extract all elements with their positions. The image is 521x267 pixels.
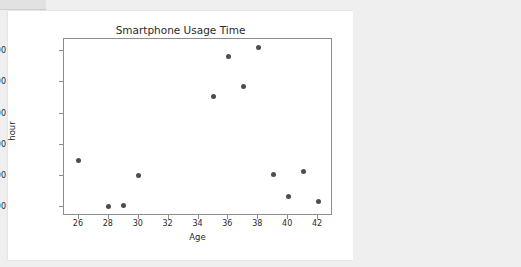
- data-point: [256, 45, 261, 50]
- data-point: [211, 94, 216, 99]
- x-tick-label: 42: [312, 219, 322, 228]
- y-tick-label: 1400: [0, 77, 6, 86]
- data-point: [316, 199, 321, 204]
- data-point: [271, 172, 276, 177]
- data-point: [241, 84, 246, 89]
- x-tick-mark: [168, 215, 169, 219]
- y-tick-mark: [59, 175, 63, 176]
- y-tick-label: 1000: [0, 139, 6, 148]
- x-tick-label: 36: [222, 219, 232, 228]
- x-axis-label: Age: [63, 232, 332, 242]
- x-tick-mark: [198, 215, 199, 219]
- data-point: [121, 203, 126, 208]
- x-tick-label: 40: [282, 219, 292, 228]
- scatter-plot: Smartphone Usage Time 600800100012001400…: [8, 11, 353, 260]
- x-tick-label: 32: [163, 219, 173, 228]
- x-tick-mark: [78, 215, 79, 219]
- data-point: [226, 54, 231, 59]
- y-tick-mark: [59, 81, 63, 82]
- x-tick-label: 28: [103, 219, 113, 228]
- x-tick-label: 26: [73, 219, 83, 228]
- chart-title: Smartphone Usage Time: [8, 24, 353, 36]
- x-tick-mark: [108, 215, 109, 219]
- axes-frame: [63, 38, 332, 215]
- y-tick-label: 600: [0, 201, 6, 210]
- y-tick-label: 1600: [0, 46, 6, 55]
- x-tick-mark: [287, 215, 288, 219]
- y-tick-label: 800: [0, 170, 6, 179]
- x-tick-label: 38: [252, 219, 262, 228]
- y-tick-mark: [59, 144, 63, 145]
- x-tick-label: 34: [192, 219, 202, 228]
- data-point: [301, 169, 306, 174]
- figure-card: Smartphone Usage Time 600800100012001400…: [8, 11, 353, 260]
- data-point: [286, 194, 291, 199]
- y-tick-label: 1200: [0, 108, 6, 117]
- data-point: [76, 158, 81, 163]
- y-tick-mark: [59, 113, 63, 114]
- screenshot-canvas: Smartphone Usage Time 600800100012001400…: [0, 0, 521, 267]
- data-point: [136, 173, 141, 178]
- y-tick-mark: [59, 50, 63, 51]
- x-tick-mark: [227, 215, 228, 219]
- y-axis-label: hour: [7, 121, 17, 140]
- x-tick-mark: [138, 215, 139, 219]
- data-point: [106, 204, 111, 209]
- x-tick-mark: [257, 215, 258, 219]
- x-tick-label: 30: [133, 219, 143, 228]
- corner-artifact: [0, 0, 46, 10]
- y-tick-mark: [59, 206, 63, 207]
- x-tick-mark: [317, 215, 318, 219]
- background-panel: [353, 0, 521, 267]
